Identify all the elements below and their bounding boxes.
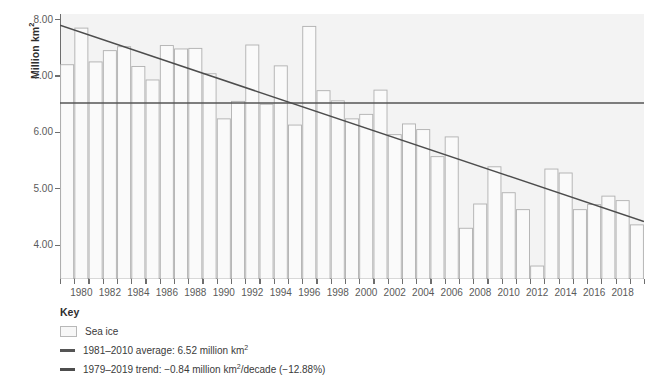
x-tick-mark xyxy=(630,279,631,284)
x-tick-label: 2004 xyxy=(412,287,434,298)
y-tick-mark xyxy=(55,75,60,76)
x-tick-label: 2000 xyxy=(355,287,377,298)
x-tick-mark xyxy=(160,279,161,284)
x-tick-mark xyxy=(188,279,189,284)
x-tick-mark xyxy=(231,279,232,284)
bar xyxy=(189,48,202,279)
x-tick-mark xyxy=(601,279,602,284)
x-tick-mark xyxy=(145,279,146,284)
x-tick-mark xyxy=(373,279,374,284)
x-tick-label: 2008 xyxy=(469,287,491,298)
bar xyxy=(545,169,558,279)
bar xyxy=(217,119,230,279)
x-tick-mark xyxy=(88,279,89,284)
x-tick-mark xyxy=(587,279,588,284)
legend-item: Sea ice xyxy=(60,323,620,340)
bar xyxy=(317,91,330,279)
legend-swatch-trend-line xyxy=(60,368,75,370)
bar xyxy=(573,210,586,279)
legend-swatch-box xyxy=(60,326,77,337)
x-tick-mark xyxy=(459,279,460,284)
legend-items: Sea ice1981–2010 average: 6.52 million k… xyxy=(60,323,620,378)
x-tick-mark xyxy=(573,279,574,284)
x-tick-mark xyxy=(473,279,474,284)
x-tick-label: 2018 xyxy=(612,287,634,298)
chart-figure: Million km2 8.007.006.005.004.00 1980198… xyxy=(0,0,665,384)
legend-item-label: Sea ice xyxy=(85,326,118,337)
bar xyxy=(488,167,501,279)
y-tick-label: 8.00 xyxy=(29,14,53,25)
x-tick-mark xyxy=(616,279,617,284)
x-tick-mark xyxy=(259,279,260,284)
y-tick-label: 6.00 xyxy=(29,126,53,137)
x-tick-mark xyxy=(274,279,275,284)
y-tick-mark xyxy=(55,132,60,133)
x-tick-label: 2006 xyxy=(441,287,463,298)
x-tick-mark xyxy=(430,279,431,284)
x-tick-mark xyxy=(516,279,517,284)
x-tick-mark xyxy=(316,279,317,284)
y-tick-mark xyxy=(55,19,60,20)
x-tick-label: 1996 xyxy=(298,287,320,298)
x-tick-mark xyxy=(644,279,645,284)
bar xyxy=(374,90,387,279)
x-tick-label: 1986 xyxy=(156,287,178,298)
x-tick-mark xyxy=(117,279,118,284)
x-tick-mark xyxy=(530,279,531,284)
x-tick-mark xyxy=(445,279,446,284)
bar xyxy=(417,130,430,279)
x-tick-mark xyxy=(544,279,545,284)
bar xyxy=(559,173,572,279)
legend-item: 1979–2019 trend: −0.84 million km2/decad… xyxy=(60,361,620,378)
bar xyxy=(331,101,344,279)
x-tick-label: 2010 xyxy=(498,287,520,298)
chart-legend: Key Sea ice1981–2010 average: 6.52 milli… xyxy=(60,306,620,380)
x-tick-mark xyxy=(202,279,203,284)
y-tick-label: 4.00 xyxy=(29,239,53,250)
bar xyxy=(474,204,487,279)
bar-series xyxy=(61,26,644,279)
bar xyxy=(502,193,515,279)
bar xyxy=(175,49,188,279)
bar xyxy=(160,46,173,279)
x-tick-label: 1982 xyxy=(99,287,121,298)
x-tick-label: 2002 xyxy=(384,287,406,298)
x-tick-label: 1990 xyxy=(213,287,235,298)
legend-item-label: 1979–2019 trend: −0.84 million km2/decad… xyxy=(83,363,325,375)
x-tick-mark xyxy=(502,279,503,284)
x-tick-label: 2016 xyxy=(583,287,605,298)
bar xyxy=(431,157,444,279)
x-tick-mark xyxy=(74,279,75,284)
x-tick-mark xyxy=(60,279,61,284)
x-tick-label: 2012 xyxy=(526,287,548,298)
x-tick-mark xyxy=(331,279,332,284)
x-tick-label: 1984 xyxy=(127,287,149,298)
y-tick-label: 7.00 xyxy=(29,70,53,81)
x-tick-mark xyxy=(402,279,403,284)
x-tick-label: 1998 xyxy=(327,287,349,298)
x-tick-label: 1994 xyxy=(270,287,292,298)
bar xyxy=(246,45,259,279)
x-tick-label: 2014 xyxy=(555,287,577,298)
x-tick-label: 1988 xyxy=(184,287,206,298)
bar xyxy=(118,47,131,279)
legend-swatch-average-line xyxy=(60,349,75,351)
bar xyxy=(588,205,601,279)
x-tick-mark xyxy=(345,279,346,284)
x-tick-mark xyxy=(103,279,104,284)
bar xyxy=(630,225,643,279)
x-tick-mark xyxy=(302,279,303,284)
chart-svg xyxy=(60,14,644,279)
y-tick-mark xyxy=(55,245,60,246)
bar xyxy=(459,228,472,279)
legend-item: 1981–2010 average: 6.52 million km2 xyxy=(60,342,620,359)
bar xyxy=(516,210,529,279)
x-tick-mark xyxy=(388,279,389,284)
bar xyxy=(75,28,88,279)
plot-area: 8.007.006.005.004.00 1980198219841986198… xyxy=(60,14,644,279)
x-tick-mark xyxy=(174,279,175,284)
bar xyxy=(402,124,415,279)
bar xyxy=(146,80,159,279)
bar xyxy=(232,101,245,279)
x-tick-mark xyxy=(559,279,560,284)
